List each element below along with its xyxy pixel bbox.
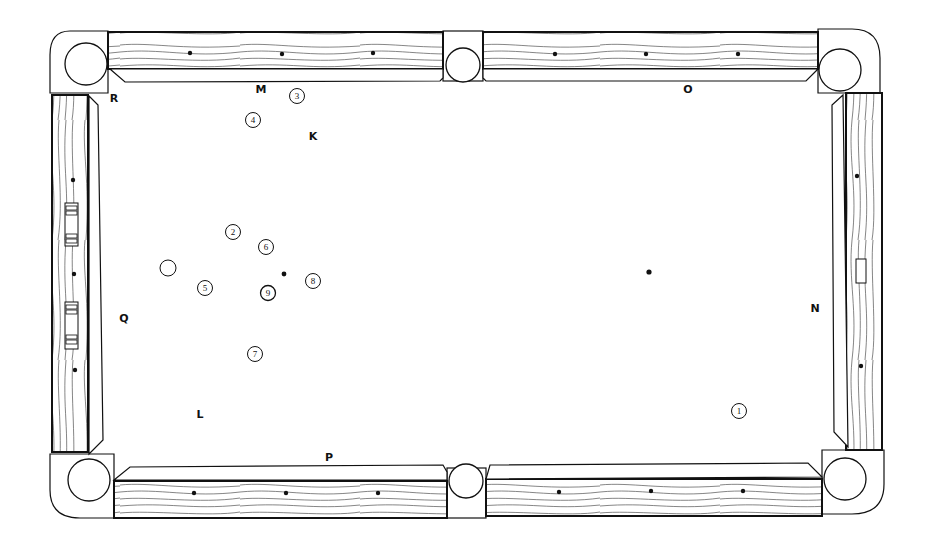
svg-text:2: 2: [231, 227, 236, 237]
svg-text:9: 9: [266, 288, 271, 298]
rail-top-right: [483, 32, 818, 69]
diamond: [644, 52, 648, 56]
diamond: [72, 272, 76, 276]
diamond: [736, 52, 740, 56]
ball-2: 2: [226, 225, 241, 240]
label-m: M: [256, 83, 267, 96]
diamond: [188, 51, 192, 55]
label-n: N: [810, 302, 819, 315]
ball-5: 5: [198, 281, 213, 296]
side-pocket-top: [443, 31, 483, 82]
svg-text:8: 8: [311, 276, 316, 286]
diamond: [557, 490, 561, 494]
rail-top-left: [108, 32, 443, 69]
label-p: P: [325, 451, 333, 464]
rail-left: [52, 95, 88, 452]
label-q: Q: [119, 312, 128, 325]
svg-text:7: 7: [253, 349, 258, 359]
side-pocket-bottom: [447, 464, 486, 518]
pocket-bottom-right: [824, 458, 866, 500]
diamond: [553, 52, 557, 56]
corner-top-left: [50, 31, 108, 93]
ball-4: 4: [246, 113, 261, 128]
rail-plate-upper: [65, 203, 78, 246]
diamond: [73, 368, 77, 372]
cue-ball: [160, 260, 176, 276]
ball-6: 6: [259, 240, 274, 255]
head-spot: [282, 272, 287, 277]
diamond: [859, 364, 863, 368]
cushion-bottom-left: [114, 465, 447, 480]
diamond: [71, 178, 75, 182]
diamond: [376, 491, 380, 495]
ball-1: 1: [732, 404, 747, 419]
diamond: [284, 491, 288, 495]
pocket-top-left: [65, 43, 107, 85]
corner-bottom-left: [50, 454, 114, 518]
label-o: O: [683, 83, 692, 96]
diamond: [741, 489, 745, 493]
cushion-left: [89, 96, 103, 454]
rail-right: [846, 93, 882, 450]
ball-7: 7: [248, 347, 263, 362]
diamond: [192, 491, 196, 495]
diamond: [280, 52, 284, 56]
diamond: [855, 174, 859, 178]
svg-text:1: 1: [737, 406, 742, 416]
svg-text:4: 4: [251, 115, 256, 125]
diamond: [371, 51, 375, 55]
rail-plate: [856, 259, 866, 283]
label-r: R: [110, 92, 119, 105]
cushion-top-left: [110, 69, 443, 82]
cushion-bottom-right: [486, 463, 822, 479]
diamond: [649, 489, 653, 493]
pocket-bottom-left: [68, 459, 110, 501]
ball-9: 9: [261, 286, 276, 301]
rail-bottom-right: [486, 479, 822, 516]
foot-spot: [646, 269, 651, 274]
pool-table-diagram: 1 2 3 4 5 6 7 8 9 R M K O Q N L P: [0, 0, 931, 547]
pocket-top-right: [819, 49, 861, 91]
cushion-top-right: [483, 69, 818, 81]
svg-text:6: 6: [264, 242, 269, 252]
corner-bottom-right: [822, 450, 884, 514]
rail-bottom-left: [114, 481, 447, 518]
rail-plate-lower: [65, 302, 78, 349]
ball-8: 8: [306, 274, 321, 289]
svg-text:3: 3: [295, 91, 300, 101]
label-k: K: [309, 130, 318, 143]
corner-top-right: [818, 29, 880, 93]
svg-text:5: 5: [203, 283, 208, 293]
label-l: L: [196, 408, 203, 421]
ball-3: 3: [290, 89, 305, 104]
